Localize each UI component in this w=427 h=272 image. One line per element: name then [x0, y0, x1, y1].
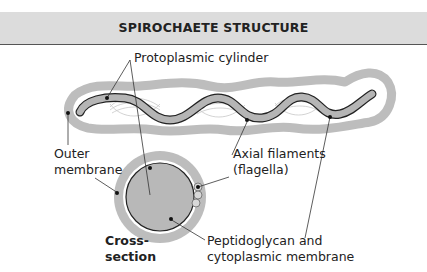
- spirochaete-diagram: [0, 0, 427, 272]
- label-outer-membrane-line1: Outer: [54, 146, 90, 162]
- label-outer-membrane-line2: membrane: [54, 162, 122, 178]
- label-axial-filaments-line1: Axial filaments: [233, 146, 326, 162]
- label-cross-section-line1: Cross-: [105, 233, 149, 249]
- label-peptidoglycan-line2: cytoplasmic membrane: [207, 249, 354, 265]
- label-axial-filaments-line2: (flagella): [233, 162, 289, 178]
- label-cross-section-line2: section: [105, 249, 156, 265]
- axial-filament-circle: [194, 191, 202, 199]
- label-peptidoglycan-line1: Peptidoglycan and: [207, 233, 322, 249]
- axial-filament-circle: [192, 199, 200, 207]
- cross-section: [114, 151, 206, 243]
- label-protoplasmic-cylinder: Protoplasmic cylinder: [134, 50, 268, 66]
